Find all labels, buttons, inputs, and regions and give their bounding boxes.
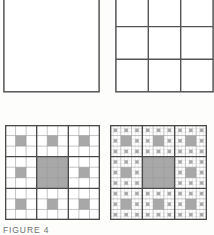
sierpinski-carpet-iteration-1-panel [115,0,214,93]
third-level-center-square [135,181,139,185]
third-level-center-square [178,181,182,185]
sierpinski-carpet-iteration-3-panel [110,125,207,220]
third-level-center-square [157,213,161,217]
third-level-center-square [124,129,128,133]
third-level-center-square [157,129,161,133]
third-level-center-square [135,202,139,206]
third-level-center-square [189,192,193,196]
third-level-center-square [178,192,182,196]
third-level-center-square [189,129,193,133]
third-level-center-square [135,171,139,175]
third-level-center-square [200,181,204,185]
third-level-center-square [200,202,204,206]
iteration-0-drawing [3,0,100,93]
third-level-center-square [146,213,150,217]
third-level-center-square [200,139,204,143]
third-level-center-square [200,171,204,175]
third-level-center-square [178,139,182,143]
center-block-fill [37,157,69,189]
outer-square-outline [4,0,99,92]
third-level-center-square [124,150,128,154]
third-level-center-square [124,192,128,196]
third-level-center-square [200,150,204,154]
figure-root: FIGURE 4 [0,0,214,235]
third-level-center-square [189,160,193,164]
third-level-center-square [124,213,128,217]
third-level-center-square [200,192,204,196]
third-level-center-square [167,192,171,196]
third-level-center-square [157,192,161,196]
third-level-center-square [178,129,182,133]
third-level-center-square [178,171,182,175]
sierpinski-carpet-iteration-2-panel [5,125,100,220]
third-level-center-square [178,150,182,154]
third-level-center-square [114,129,118,133]
third-level-center-square [146,139,150,143]
third-level-center-square [114,202,118,206]
outer-square-outline [116,0,213,92]
third-level-center-square [167,150,171,154]
third-level-center-square [200,129,204,133]
third-level-center-square [135,160,139,164]
third-level-center-square [114,160,118,164]
third-level-center-square [124,181,128,185]
third-level-center-square [135,213,139,217]
third-level-center-square [200,213,204,217]
third-level-center-square [167,129,171,133]
third-level-center-square [189,213,193,217]
third-level-center-square [146,150,150,154]
third-level-center-square [178,160,182,164]
third-level-center-square [114,139,118,143]
third-level-center-square [167,213,171,217]
third-level-center-square [146,129,150,133]
center-block-fill [142,157,174,189]
third-level-center-square [167,139,171,143]
third-level-center-square [114,192,118,196]
third-level-center-square [200,160,204,164]
third-level-center-square [114,213,118,217]
third-level-center-square [114,181,118,185]
third-level-center-square [135,139,139,143]
iteration-1-drawing [115,0,214,93]
figure-caption: FIGURE 4 [3,225,123,235]
third-level-center-square [114,171,118,175]
sierpinski-carpet-iteration-0-panel [3,0,100,93]
third-level-center-square [178,213,182,217]
iteration-3-drawing [110,125,207,220]
third-level-center-square [167,202,171,206]
third-level-center-square [124,160,128,164]
third-level-center-square [114,150,118,154]
third-level-center-square [189,150,193,154]
third-level-center-square [135,129,139,133]
third-level-center-square [146,202,150,206]
third-level-center-square [146,192,150,196]
iteration-2-drawing [5,125,100,220]
third-level-center-square [178,202,182,206]
third-level-center-square [135,150,139,154]
third-level-center-square [157,150,161,154]
third-level-center-square [135,192,139,196]
third-level-center-square [189,181,193,185]
